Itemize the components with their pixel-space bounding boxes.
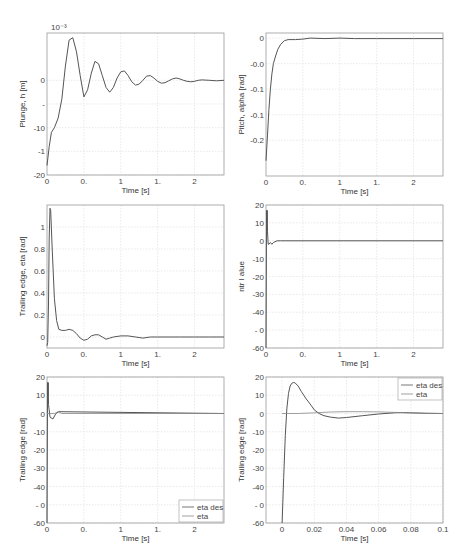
- y-exponent-label: 10⁻³: [51, 23, 67, 32]
- x-tick-label: 0.: [81, 177, 88, 186]
- plot-control-value: 00.11.2-60- 0-40-30-20-1001020Time [s]nt…: [237, 201, 443, 368]
- plot-plunge: 00.11.2-20-1-10-0Time [s]Plunge, h [m]10…: [18, 23, 224, 195]
- x-tick-label: 2: [411, 178, 416, 187]
- x-tick-label: 0.: [81, 525, 88, 534]
- y-tick-label: -1: [38, 147, 46, 156]
- y-tick-label: -60: [33, 519, 45, 528]
- x-tick-label: 0.: [300, 350, 307, 359]
- x-tick-label: 1.: [154, 177, 161, 186]
- legend-entry: eta: [197, 512, 209, 521]
- y-tick-label: -40: [252, 483, 264, 492]
- y-tick-label: 0.2: [34, 311, 46, 320]
- x-tick-label: 0.08: [403, 525, 419, 534]
- y-tick-label: -40: [252, 308, 264, 317]
- y-axis-label: Pitch, alpha [rad]: [237, 74, 246, 134]
- y-tick-label: -0.1: [250, 111, 264, 120]
- y-axis-label: Plunge, h [m]: [18, 80, 27, 127]
- x-tick-label: 0.: [81, 350, 88, 359]
- y-axis-label: Trailing edge, eta [rad]: [18, 237, 27, 317]
- y-tick-label: -10: [252, 428, 264, 437]
- x-axis-label: Time [s]: [121, 534, 149, 543]
- x-tick-label: 1: [119, 350, 124, 359]
- x-tick-label: 2: [192, 525, 197, 534]
- x-tick-label: 0: [264, 350, 269, 359]
- legend-entry: eta: [416, 390, 428, 399]
- y-tick-label: 20: [255, 201, 264, 210]
- x-axis-label: Time [s]: [121, 359, 149, 368]
- x-tick-label: 0: [264, 178, 269, 187]
- x-tick-label: 0.02: [306, 525, 322, 534]
- plot-pitch: 00.11.2-0.2-0.1-0.1-0.00Time [s]Pitch, a…: [237, 33, 443, 196]
- plot-trailing-edge-eta: 00.11.200.20.40.60.81Time [s]Trailing ed…: [18, 205, 224, 368]
- y-tick-label: 20: [255, 373, 264, 382]
- x-tick-label: 0: [45, 350, 50, 359]
- y-axis-label: Trailing edge [rad]: [18, 418, 27, 482]
- y-tick-label: -20: [33, 446, 45, 455]
- y-tick-label: - 0: [36, 501, 46, 510]
- x-tick-label: 1.: [154, 525, 161, 534]
- y-tick-label: -0.1: [250, 85, 264, 94]
- figure-grid: 00.11.2-20-1-10-0Time [s]Plunge, h [m]10…: [0, 0, 464, 558]
- x-tick-label: 0.04: [339, 525, 355, 534]
- y-tick-label: 0: [41, 410, 46, 419]
- y-tick-label: -20: [252, 273, 264, 282]
- x-tick-label: 0.1: [437, 525, 449, 534]
- x-axis-label: Time [s]: [121, 186, 149, 195]
- y-tick-label: -: [42, 100, 45, 109]
- y-tick-label: -10: [33, 428, 45, 437]
- plot-area: [266, 33, 443, 176]
- x-tick-label: 1.: [373, 350, 380, 359]
- x-tick-label: 2: [192, 177, 197, 186]
- y-tick-label: 0: [41, 333, 46, 342]
- y-tick-label: 0: [260, 34, 265, 43]
- x-tick-label: 0.: [300, 178, 307, 187]
- y-tick-label: 0: [260, 410, 265, 419]
- x-tick-label: 1: [119, 177, 124, 186]
- y-tick-label: -10: [252, 255, 264, 264]
- y-tick-label: -60: [252, 344, 264, 353]
- x-tick-label: 1: [119, 525, 124, 534]
- x-tick-label: 0: [280, 525, 285, 534]
- y-tick-label: -10: [33, 124, 45, 133]
- x-tick-label: 0: [45, 525, 50, 534]
- y-tick-label: -0.0: [250, 60, 264, 69]
- y-axis-label: Trailing edge [rad]: [237, 418, 246, 482]
- y-tick-label: -20: [33, 171, 45, 180]
- y-tick-label: -40: [33, 483, 45, 492]
- x-tick-label: 2: [411, 350, 416, 359]
- legend-entry: eta des: [197, 503, 223, 512]
- plot-trailing-edge-compare: 00.11.2-60- 0-40-30-20-1001020Time [s]Tr…: [18, 373, 224, 543]
- y-tick-label: 10: [36, 391, 45, 400]
- y-tick-label: 0: [260, 237, 265, 246]
- x-tick-label: 0.06: [371, 525, 387, 534]
- y-tick-label: 10: [255, 219, 264, 228]
- legend-entry: eta des: [416, 381, 442, 390]
- x-tick-label: 1: [338, 350, 343, 359]
- y-tick-label: 0: [41, 76, 46, 85]
- y-tick-label: -30: [252, 464, 264, 473]
- y-tick-label: -60: [252, 519, 264, 528]
- y-tick-label: 0.6: [34, 267, 46, 276]
- legend: eta deseta: [179, 500, 223, 522]
- x-tick-label: 2: [192, 350, 197, 359]
- x-tick-label: 1: [338, 178, 343, 187]
- y-tick-label: 10: [255, 391, 264, 400]
- x-axis-label: Time [s]: [340, 534, 368, 543]
- y-tick-label: - 0: [255, 326, 265, 335]
- plot-area: [47, 205, 224, 348]
- x-axis-label: Time [s]: [340, 187, 368, 196]
- y-tick-label: 0.4: [34, 289, 46, 298]
- y-tick-label: - 0: [255, 501, 265, 510]
- y-tick-label: -20: [252, 446, 264, 455]
- y-tick-label: -0.2: [250, 136, 264, 145]
- x-tick-label: 0: [45, 177, 50, 186]
- legend: eta deseta: [398, 378, 442, 400]
- y-axis-label: ntr l alue: [237, 261, 246, 292]
- y-tick-label: 0.8: [34, 245, 46, 254]
- y-tick-label: 1: [41, 223, 46, 232]
- y-tick-label: 20: [36, 373, 45, 382]
- x-tick-label: 1.: [154, 350, 161, 359]
- y-tick-label: -30: [33, 464, 45, 473]
- y-tick-label: -30: [252, 290, 264, 299]
- x-tick-label: 1.: [373, 178, 380, 187]
